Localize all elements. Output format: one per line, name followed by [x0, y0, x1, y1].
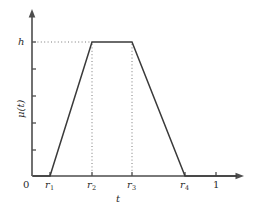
x-tick-label-r2-sub: 2: [92, 184, 96, 192]
y-axis-title: μ(t): [16, 100, 26, 118]
x-tick-label-r4-sub: 4: [185, 184, 189, 192]
x-axis-title: t: [116, 194, 120, 204]
y-axis-arrow-icon: [29, 9, 36, 18]
membership-curve: [33, 42, 237, 176]
x-tick-label-r4: r4: [180, 180, 189, 190]
trapezoidal-membership-function-figure: h μ(t) 0 r1 r2 r3 r4 1 t: [0, 0, 256, 212]
x-tick-label-r2: r2: [87, 180, 96, 190]
x-tick-label-r3-sub: 3: [132, 184, 136, 192]
x-tick-label-r1-sub: 1: [50, 184, 54, 192]
x-tick-label-r3: r3: [127, 180, 136, 190]
x-tick-label-r1: r1: [45, 180, 54, 190]
x-tick-label-one: 1: [213, 180, 219, 190]
x-axis-origin-label: 0: [23, 180, 29, 190]
y-axis-height-label: h: [18, 37, 24, 47]
